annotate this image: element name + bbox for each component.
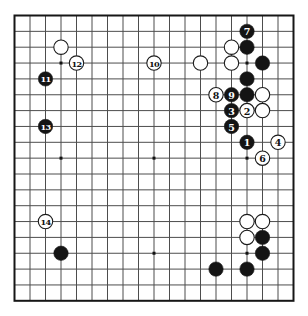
stone-move-number: 4 [275,137,282,148]
stone-move-number: 5 [228,122,235,133]
star-point [246,62,249,65]
stone-white-17-7 [255,103,269,117]
stone-black-17-16 [255,246,269,260]
stone-white-15-3 [224,40,238,54]
stone-black-14-17 [209,262,223,276]
go-board: 1211131410789325146 [0,0,308,316]
stone-move-number: 3 [228,106,235,117]
star-point [60,62,63,65]
stone-black-16-6 [240,88,254,102]
stone-black-16-3 [240,40,254,54]
star-point [60,157,63,160]
stone-move-number: 7 [244,26,251,37]
stone-white-17-14 [255,214,269,228]
stone-move-number: 13 [41,122,52,132]
go-board-diagram: 1211131410789325146 [0,0,308,316]
star-point [246,252,249,255]
star-point [153,157,156,160]
stone-move-number: 1 [244,137,251,148]
stone-move-number: 10 [149,59,160,69]
star-point [246,157,249,160]
stone-move-number: 6 [259,153,266,164]
stone-black-4-16 [54,246,68,260]
stone-black-17-4 [255,56,269,70]
stone-white-16-15 [240,230,254,244]
stone-move-number: 12 [72,59,82,69]
stone-white-13-4 [193,56,207,70]
stone-white-4-3 [54,40,68,54]
stone-black-16-5 [240,72,254,86]
stone-move-number: 9 [228,90,235,101]
stone-move-number: 2 [244,106,251,117]
stone-black-16-17 [240,262,254,276]
stone-white-16-14 [240,214,254,228]
stone-move-number: 14 [41,217,52,227]
stone-white-17-6 [255,88,269,102]
stone-white-15-4 [224,56,238,70]
stone-move-number: 8 [213,90,220,101]
stone-move-number: 11 [41,74,51,84]
star-point [153,252,156,255]
stone-black-17-15 [255,230,269,244]
